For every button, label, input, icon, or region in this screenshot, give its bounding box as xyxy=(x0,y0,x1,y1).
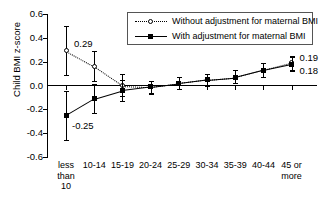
x-tick xyxy=(207,86,208,90)
y-tick-label: -0.4 xyxy=(17,128,43,138)
error-bar-cap xyxy=(177,77,182,78)
data-point xyxy=(289,62,294,67)
series-line-segment xyxy=(66,51,95,67)
series-line-segment xyxy=(122,87,150,92)
error-bar-cap xyxy=(120,101,125,102)
error-bar-cap xyxy=(92,81,97,82)
chart-legend: Without adjustment for maternal BMI With… xyxy=(127,12,313,45)
value-annotation: -0.25 xyxy=(72,121,94,131)
error-bar-cap xyxy=(233,83,238,84)
x-tick xyxy=(66,86,67,90)
x-tick xyxy=(292,86,293,90)
y-tick xyxy=(43,133,47,134)
error-bar-cap xyxy=(92,51,97,52)
y-tick-label: 0.0 xyxy=(17,81,43,91)
error-bar-cap xyxy=(205,86,210,87)
y-tick-label: -0.2 xyxy=(17,104,43,114)
series-line-segment xyxy=(235,70,263,78)
error-bar-cap xyxy=(149,94,154,95)
y-tick xyxy=(43,14,47,15)
data-point xyxy=(92,64,97,69)
x-tick-label: 45 ormore xyxy=(266,160,318,181)
error-bar-cap xyxy=(64,91,69,92)
data-point xyxy=(92,96,97,101)
error-bar-cap xyxy=(64,75,69,76)
y-tick xyxy=(43,109,47,110)
series-line-segment xyxy=(179,80,207,85)
x-tick xyxy=(263,86,264,90)
y-tick xyxy=(43,38,47,39)
error-bar-cap xyxy=(92,113,97,114)
error-bar-cap xyxy=(261,77,266,78)
legend-label: With adjustment for maternal BMI xyxy=(172,30,306,43)
y-tick-label: 0.4 xyxy=(17,33,43,43)
y-tick-label: 0.6 xyxy=(17,9,43,19)
value-annotation: 0.18 xyxy=(300,66,319,76)
zero-reference-line xyxy=(47,85,317,86)
error-bar-cap xyxy=(64,140,69,141)
legend-label: Without adjustment for maternal BMI xyxy=(172,15,318,28)
value-annotation: 0.19 xyxy=(300,53,319,63)
series-line-segment xyxy=(94,66,123,86)
error-bar-cap xyxy=(149,81,154,82)
series-line-segment xyxy=(66,99,95,117)
error-bar-cap xyxy=(64,26,69,27)
y-tick xyxy=(43,157,47,158)
data-point xyxy=(233,75,238,80)
error-bar-cap xyxy=(290,57,295,58)
x-tick xyxy=(235,86,236,90)
filled-square-marker-icon xyxy=(148,34,153,39)
chart-container: Child BMI z-score 0.60.40.20.0-0.2-0.4-0… xyxy=(0,0,323,206)
data-point xyxy=(64,113,69,118)
series-line-segment xyxy=(94,90,122,99)
y-tick-label: 0.2 xyxy=(17,57,43,67)
error-bar-cap xyxy=(290,71,295,72)
y-tick xyxy=(43,62,47,63)
error-bar-cap xyxy=(177,89,182,90)
data-point xyxy=(205,77,210,82)
data-point xyxy=(176,81,181,86)
data-point xyxy=(261,68,266,73)
error-bar-cap xyxy=(120,80,125,81)
series-line-segment xyxy=(207,77,235,80)
value-annotation: 0.29 xyxy=(74,39,93,49)
y-axis-line xyxy=(47,14,48,158)
error-bar-cap xyxy=(261,63,266,64)
data-point xyxy=(120,88,125,93)
open-circle-marker-icon xyxy=(148,19,153,24)
error-bar-cap xyxy=(92,84,97,85)
error-bar-cap xyxy=(233,70,238,71)
error-bar-cap xyxy=(120,74,125,75)
error-bar-cap xyxy=(205,74,210,75)
data-point xyxy=(148,84,153,89)
